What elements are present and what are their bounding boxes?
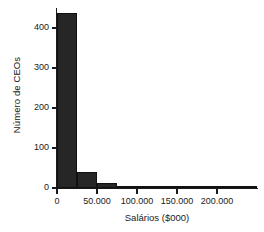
histogram-bar [157, 186, 177, 188]
histogram-bar [197, 186, 217, 188]
y-tick-label: 300 [3, 63, 49, 72]
histogram-bar [57, 13, 77, 188]
histogram-bar [97, 183, 117, 188]
x-tick-label: 200.000 [187, 196, 247, 207]
y-tick-label-wrap: 200 [0, 103, 49, 112]
histogram-bar [177, 186, 197, 188]
x-tick-mark [56, 189, 57, 194]
y-tick-label-wrap: 400 [0, 23, 49, 32]
x-axis-label: Salários ($000) [57, 212, 257, 224]
histogram-bar [137, 186, 157, 188]
x-tick-label-wrap: 200.000 [187, 196, 247, 207]
x-tick-mark [176, 189, 177, 194]
y-tick-label: 400 [3, 23, 49, 32]
y-tick-label-wrap: 0 [0, 183, 49, 192]
x-tick-mark [136, 189, 137, 194]
y-tick-label-wrap: 300 [0, 63, 49, 72]
histogram-bar [117, 186, 137, 188]
x-axis-line [57, 188, 258, 189]
plot-area [57, 8, 257, 188]
x-tick-mark [96, 189, 97, 194]
histogram-bar [217, 186, 237, 188]
y-tick-label: 100 [3, 143, 49, 152]
histogram-figure: Número de CEOs 0100200300400 050.000100.… [0, 0, 264, 232]
y-tick-label: 200 [3, 103, 49, 112]
histogram-bar [237, 186, 257, 188]
y-tick-label-wrap: 100 [0, 143, 49, 152]
histogram-bar [77, 172, 97, 188]
x-tick-mark [216, 189, 217, 194]
y-tick-label: 0 [3, 183, 49, 192]
